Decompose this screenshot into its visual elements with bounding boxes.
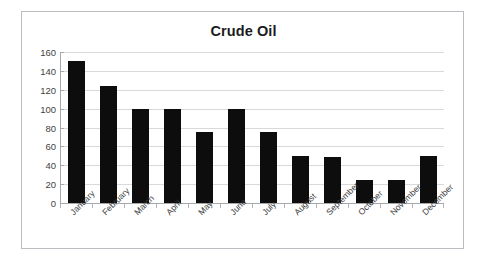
x-axis-tick-mark: [124, 204, 125, 208]
x-axis-tick-mark: [412, 204, 413, 208]
gridline: [60, 146, 444, 147]
y-axis-tick-mark: [60, 128, 64, 129]
gridline: [60, 165, 444, 166]
bar[interactable]: [68, 61, 85, 203]
y-axis-tick-label: 40: [26, 160, 56, 171]
x-axis-tick-mark: [60, 204, 61, 208]
gridline: [60, 90, 444, 91]
x-axis-tick-mark: [348, 204, 349, 208]
y-axis-tick-mark: [60, 52, 64, 53]
y-axis-tick-label: 0: [26, 198, 56, 209]
y-axis-tick-label: 120: [26, 84, 56, 95]
y-axis-tick-label: 160: [26, 47, 56, 58]
x-axis-tick-mark: [252, 204, 253, 208]
bar[interactable]: [260, 132, 277, 203]
gridline: [60, 109, 444, 110]
chart-container: Crude Oil 020406080100120140160 JanuaryF…: [21, 11, 464, 249]
bar[interactable]: [196, 132, 213, 203]
y-axis-tick-label: 60: [26, 141, 56, 152]
y-axis-tick-mark: [60, 146, 64, 147]
bar[interactable]: [100, 86, 117, 203]
gridline: [60, 71, 444, 72]
y-axis-tick-mark: [60, 90, 64, 91]
x-axis-tick-mark: [380, 204, 381, 208]
y-axis-tick-labels: 020406080100120140160: [22, 52, 56, 203]
gridline: [60, 128, 444, 129]
x-axis-tick-mark: [220, 204, 221, 208]
gridline: [60, 52, 444, 53]
x-axis-tick-mark: [284, 204, 285, 208]
y-axis-tick-mark: [60, 71, 64, 72]
x-axis-tick-mark: [92, 204, 93, 208]
y-axis-tick-mark: [60, 165, 64, 166]
bar[interactable]: [132, 109, 149, 203]
x-axis-tick-mark: [443, 204, 444, 208]
y-axis-tick-label: 80: [26, 122, 56, 133]
bar[interactable]: [228, 109, 245, 203]
x-axis-tick-labels: JanuaryFebruaryMarchAprilMayJuneJulyAugu…: [60, 204, 444, 250]
x-axis-tick-mark: [316, 204, 317, 208]
y-axis-tick-mark: [60, 109, 64, 110]
bar[interactable]: [164, 109, 181, 203]
y-axis-tick-label: 20: [26, 179, 56, 190]
y-axis-tick-label: 100: [26, 103, 56, 114]
y-axis-tick-mark: [60, 184, 64, 185]
x-axis-tick-mark: [188, 204, 189, 208]
gridline: [60, 184, 444, 185]
x-axis-tick-mark: [156, 204, 157, 208]
y-axis-tick-label: 140: [26, 65, 56, 76]
plot-area: [60, 52, 444, 203]
chart-title: Crude Oil: [22, 23, 465, 39]
